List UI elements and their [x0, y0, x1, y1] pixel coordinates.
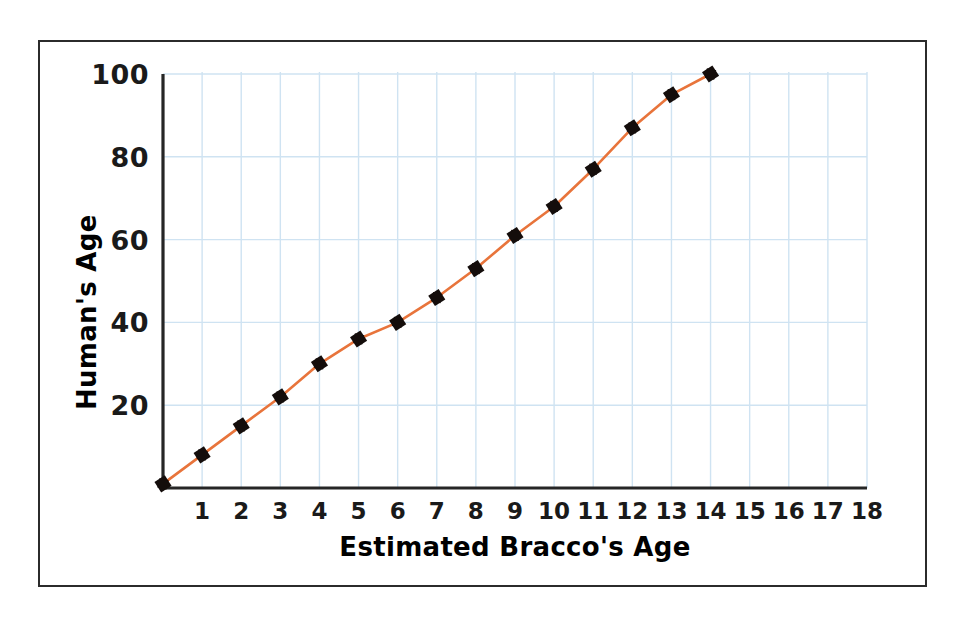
x-tick-label: 13: [655, 498, 687, 524]
marker-diamond: [426, 287, 447, 308]
y-axis-title: Human's Age: [72, 214, 102, 410]
x-tick-label: 17: [812, 498, 844, 524]
x-tick-label: 9: [507, 498, 523, 524]
marker-diamond: [153, 473, 174, 494]
data-point-marker: [387, 312, 408, 333]
marker-diamond: [387, 312, 408, 333]
marker-diamond: [348, 329, 369, 350]
x-tick-label: 15: [734, 498, 766, 524]
x-tick-label: 7: [429, 498, 445, 524]
marker-diamond: [231, 416, 252, 437]
x-tick-label: 4: [311, 498, 327, 524]
data-point-marker: [348, 329, 369, 350]
y-tick-label: 40: [110, 307, 149, 338]
x-tick-label: 10: [538, 498, 570, 524]
data-point-marker: [700, 64, 721, 85]
data-point-marker: [426, 287, 447, 308]
chart-canvas: 20406080100 123456789101112131415161718 …: [0, 0, 963, 633]
data-point-marker: [153, 473, 174, 494]
data-point-marker: [192, 445, 213, 466]
y-tick-label: 100: [91, 59, 149, 90]
marker-diamond: [192, 445, 213, 466]
y-tick-label: 60: [110, 224, 149, 255]
data-point-marker: [231, 416, 252, 437]
x-tick-label: 11: [577, 498, 609, 524]
marker-diamond: [700, 64, 721, 85]
x-tick-label: 16: [773, 498, 805, 524]
x-tick-label: 3: [272, 498, 288, 524]
gridlines-vertical: [202, 72, 867, 488]
x-tick-label: 1: [194, 498, 210, 524]
x-tick-label: 8: [468, 498, 484, 524]
x-tick-label: 14: [695, 498, 727, 524]
y-tick-label: 20: [110, 390, 149, 421]
y-tick-label: 80: [110, 141, 149, 172]
x-tick-label: 6: [390, 498, 406, 524]
x-tick-label: 18: [851, 498, 883, 524]
x-tick-label: 2: [233, 498, 249, 524]
x-tick-label: 12: [616, 498, 648, 524]
x-axis-title: Estimated Bracco's Age: [339, 532, 690, 562]
x-tick-label: 5: [351, 498, 367, 524]
